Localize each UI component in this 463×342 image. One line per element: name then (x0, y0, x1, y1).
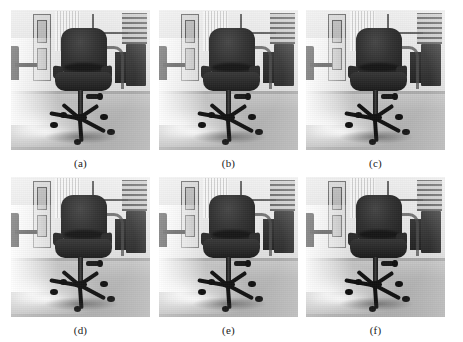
photo-scene (159, 177, 298, 317)
chair-base-hub (74, 114, 88, 121)
chair-caster (345, 289, 353, 295)
photo-scene (11, 10, 150, 150)
chair-lever-knob (245, 93, 251, 100)
office-chair (306, 10, 445, 150)
panel-caption-b: (b) (159, 150, 298, 170)
panel-caption-d: (d) (11, 317, 150, 337)
chair-lever-knob (97, 93, 103, 100)
chair-backrest-shadow (212, 230, 252, 238)
figure-panel-f: (f) (306, 177, 445, 337)
chair-caster (255, 296, 263, 302)
chair-seat (203, 239, 260, 259)
chair-caster (395, 281, 403, 287)
chair-caster (402, 129, 410, 135)
chair-caster (395, 114, 403, 120)
chair-backrest-shadow (64, 230, 104, 238)
office-chair (306, 177, 445, 317)
chair-base-hub (222, 114, 236, 121)
figure-panel-a: (a) (11, 10, 150, 170)
photo-scene (306, 177, 445, 317)
chair-caster (402, 296, 410, 302)
chair-caster (248, 281, 256, 287)
chair-caster (100, 281, 108, 287)
chair-backrest-shadow (64, 63, 104, 71)
photo-scene (11, 177, 150, 317)
chair-photo-f (306, 177, 445, 317)
chair-seat (350, 72, 407, 92)
chair-lever-knob (97, 260, 103, 267)
panel-caption-f: (f) (306, 317, 445, 337)
figure-panel-d: (d) (11, 177, 150, 337)
chair-photo-a (11, 10, 150, 150)
figure-image-grid: (a) (0, 0, 463, 342)
chair-base-hub (74, 281, 88, 288)
chair-caster (248, 114, 256, 120)
chair-photo-b (159, 10, 298, 150)
chair-caster (255, 129, 263, 135)
chair-backrest-shadow (359, 63, 399, 71)
panel-caption-c: (c) (306, 150, 445, 170)
chair-caster (107, 296, 115, 302)
office-chair (11, 177, 150, 317)
chair-lever-knob (392, 260, 398, 267)
chair-base-hub (369, 281, 383, 288)
office-chair (11, 10, 150, 150)
photo-scene (159, 10, 298, 150)
chair-caster (198, 122, 206, 128)
office-chair (159, 10, 298, 150)
chair-base-hub (222, 281, 236, 288)
chair-photo-c (306, 10, 445, 150)
chair-seat (203, 72, 260, 92)
chair-caster (50, 289, 58, 295)
chair-photo-e (159, 177, 298, 317)
chair-backrest-shadow (212, 63, 252, 71)
chair-photo-d (11, 177, 150, 317)
chair-lever-knob (392, 93, 398, 100)
chair-lever-knob (245, 260, 251, 267)
panel-caption-a: (a) (11, 150, 150, 170)
chair-seat (350, 239, 407, 259)
chair-caster (50, 122, 58, 128)
chair-caster (100, 114, 108, 120)
chair-seat (55, 239, 112, 259)
figure-panel-b: (b) (159, 10, 298, 170)
chair-caster (107, 129, 115, 135)
figure-panel-e: (e) (159, 177, 298, 337)
chair-backrest-shadow (359, 230, 399, 238)
chair-seat (55, 72, 112, 92)
chair-caster (198, 289, 206, 295)
panel-caption-e: (e) (159, 317, 298, 337)
photo-scene (306, 10, 445, 150)
chair-caster (345, 122, 353, 128)
chair-base-hub (369, 114, 383, 121)
figure-panel-c: (c) (306, 10, 445, 170)
office-chair (159, 177, 298, 317)
